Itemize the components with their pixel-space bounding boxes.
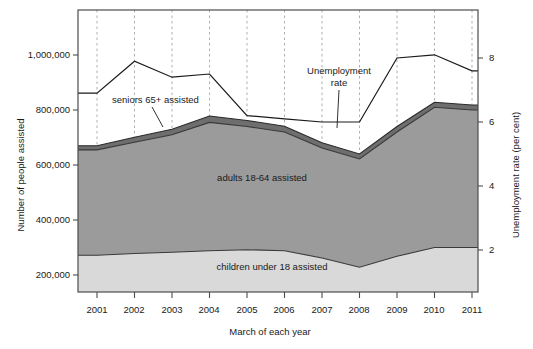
stacked-area-chart: 1,000,000 800,000 600,000 400,000 200,00… bbox=[0, 0, 533, 349]
ytick-label-800000: 800,000 bbox=[36, 104, 70, 115]
xtick-label-2003: 2003 bbox=[161, 304, 182, 315]
y2tick-label-6: 6 bbox=[489, 116, 494, 127]
x-axis-ticks bbox=[97, 292, 472, 298]
ytick-label-400000: 400,000 bbox=[36, 214, 70, 225]
ytick-label-1000000: 1,000,000 bbox=[28, 49, 70, 60]
series-label-children: children under 18 assisted bbox=[217, 261, 328, 272]
ytick-label-200000: 200,000 bbox=[36, 269, 70, 280]
y2-axis-title: Unemployment rate (per cent) bbox=[510, 112, 521, 238]
xtick-label-2005: 2005 bbox=[236, 304, 257, 315]
xtick-label-2002: 2002 bbox=[123, 304, 144, 315]
y2tick-label-4: 4 bbox=[489, 180, 494, 191]
xtick-label-2011: 2011 bbox=[462, 304, 482, 315]
unemployment-label-line1: Unemployment bbox=[307, 65, 371, 76]
x-axis-title: March of each year bbox=[229, 326, 310, 337]
xtick-label-2004: 2004 bbox=[198, 304, 219, 315]
xtick-label-2007: 2007 bbox=[311, 304, 332, 315]
y-axis-title: Number of people assisted bbox=[15, 118, 26, 231]
y2tick-label-8: 8 bbox=[489, 52, 494, 63]
chart-container: 1,000,000 800,000 600,000 400,000 200,00… bbox=[0, 0, 533, 349]
xtick-label-2001: 2001 bbox=[86, 304, 107, 315]
series-label-seniors: seniors 65+ assisted bbox=[112, 94, 199, 105]
xtick-label-2010: 2010 bbox=[423, 304, 444, 315]
xtick-label-2006: 2006 bbox=[273, 304, 294, 315]
left-axis-ticks bbox=[73, 55, 78, 275]
x-axis-tick-labels: 2001 2002 2003 2004 2005 2006 2007 2008 … bbox=[86, 304, 482, 315]
xtick-label-2009: 2009 bbox=[386, 304, 407, 315]
ytick-label-600000: 600,000 bbox=[36, 159, 70, 170]
series-label-adults: adults 18-64 assisted bbox=[217, 172, 307, 183]
right-axis-ticks bbox=[478, 58, 483, 250]
xtick-label-2008: 2008 bbox=[348, 304, 369, 315]
y2tick-label-2: 2 bbox=[489, 244, 494, 255]
unemployment-label-line2: rate bbox=[331, 77, 347, 88]
